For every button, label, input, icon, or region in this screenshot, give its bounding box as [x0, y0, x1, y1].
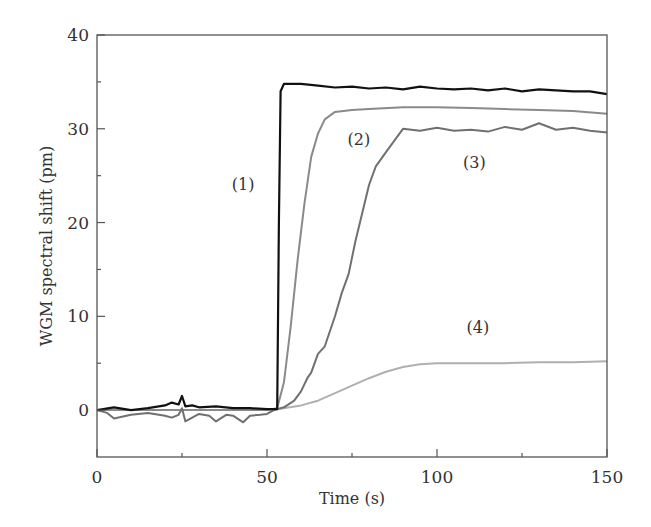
curve-label: (1)	[232, 175, 255, 194]
x-tick-label: 50	[256, 467, 278, 487]
curve-annotations: (1)(2)(3)(4)	[232, 130, 489, 337]
y-tick-label: 0	[78, 400, 89, 420]
axis-ticks: 050100150010203040	[67, 25, 623, 487]
y-tick-label: 40	[67, 25, 89, 45]
curve-label: (4)	[466, 318, 489, 337]
y-axis-label: WGM spectral shift (pm)	[37, 146, 56, 346]
line-chart: 050100150010203040 (1)(2)(3)(4) Time (s)…	[0, 0, 651, 527]
x-axis-label: Time (s)	[319, 489, 385, 508]
y-tick-label: 10	[67, 306, 89, 326]
series-line-3	[97, 123, 607, 422]
x-tick-label: 100	[421, 467, 453, 487]
y-tick-label: 20	[67, 213, 89, 233]
curve-label: (2)	[347, 130, 370, 149]
plot-frame	[97, 35, 607, 457]
y-tick-label: 30	[67, 119, 89, 139]
x-tick-label: 0	[92, 467, 103, 487]
curve-label: (3)	[463, 153, 486, 172]
x-tick-label: 150	[591, 467, 623, 487]
